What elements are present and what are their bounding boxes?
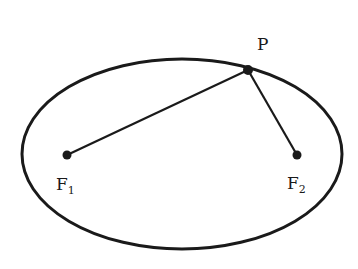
point-p bbox=[243, 65, 253, 75]
label-p: P bbox=[257, 34, 268, 54]
focus-f1 bbox=[63, 151, 72, 160]
focus-f2 bbox=[293, 151, 302, 160]
label-f1: F1 bbox=[56, 174, 75, 197]
label-f2: F2 bbox=[287, 173, 306, 196]
segment-f1-p bbox=[67, 70, 248, 155]
ellipse-diagram: P F1 F2 bbox=[0, 0, 358, 269]
